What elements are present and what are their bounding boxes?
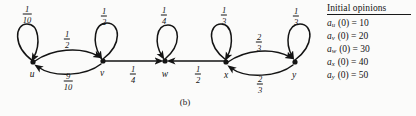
edge-w-w-self-loop — [157, 25, 177, 59]
node-u — [30, 59, 35, 64]
legend-row-y: ay (0) = 50 — [327, 69, 413, 82]
edge-weight-v-v: 12 — [101, 7, 107, 26]
edge-x-x-self-loop — [211, 24, 231, 60]
legend-row-x: ax (0) = 40 — [327, 56, 413, 69]
edge-x-to-y — [228, 51, 290, 62]
edge-weight-x-w: 12 — [195, 65, 201, 84]
legend-divider — [327, 14, 411, 15]
node-label-x: x — [224, 70, 228, 80]
edge-weight-v-u: 910 — [64, 72, 73, 91]
legend-value-v: (0) = 20 — [335, 31, 368, 41]
legend-value-w: (0) = 30 — [337, 44, 370, 54]
edge-y-y-self-loop — [288, 24, 310, 60]
node-x — [223, 59, 228, 64]
node-label-w: w — [162, 69, 168, 79]
edge-weight-w-w: 14 — [161, 6, 167, 25]
legend-value-u: (0) = 10 — [336, 18, 369, 28]
panel-caption: (b) — [180, 97, 191, 107]
legend-initial-opinions: Initial opinions au (0) = 10 av (0) = 20… — [327, 3, 413, 82]
edge-u-u-self-loop — [18, 24, 38, 61]
legend-row-u: au (0) = 10 — [327, 17, 413, 30]
legend-row-w: aw (0) = 30 — [327, 43, 413, 56]
edge-u-to-v — [35, 50, 98, 61]
edge-v-v-self-loop — [95, 23, 117, 59]
legend-value-y: (0) = 50 — [335, 70, 368, 80]
edge-weight-v-w: 14 — [130, 65, 136, 84]
edge-weight-y-x: 23 — [257, 75, 263, 94]
legend-title: Initial opinions — [327, 3, 413, 14]
figure-panel-b: u v w x y 110 12 910 12 14 14 12 13 23 2… — [0, 0, 416, 116]
node-label-u: u — [30, 69, 35, 79]
edge-weight-u-v: 12 — [64, 30, 70, 49]
legend-row-v: av (0) = 20 — [327, 30, 413, 43]
node-label-y: y — [292, 70, 296, 80]
node-y — [292, 59, 297, 64]
edge-weight-u-u: 110 — [23, 5, 32, 24]
node-label-v: v — [100, 68, 104, 78]
graph-nodes — [30, 58, 297, 64]
node-w — [162, 58, 167, 63]
edge-weight-y-y: 13 — [293, 7, 299, 26]
edge-weight-x-x: 13 — [221, 6, 227, 25]
node-v — [100, 58, 105, 63]
legend-value-x: (0) = 40 — [335, 57, 368, 67]
edge-weight-x-y: 23 — [256, 33, 262, 52]
